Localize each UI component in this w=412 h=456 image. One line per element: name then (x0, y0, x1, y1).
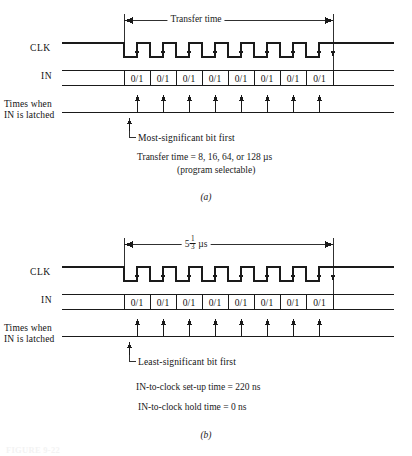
in-bit-cell: 0/1 (280, 298, 306, 309)
clk-edge-markers (135, 51, 336, 57)
in-bit-cell: 0/1 (150, 298, 176, 309)
fraction-denominator: 3 (190, 243, 196, 251)
timing-panel-b: CLK IN Times when IN is latched 513µs 0/… (0, 222, 412, 456)
timing-panel-a: CLK IN Times when IN is latched Transfer… (0, 0, 412, 215)
in-bit-cell: 0/1 (254, 74, 280, 85)
in-bit-cell: 0/1 (228, 74, 254, 85)
program-selectable-note: (program selectable) (177, 165, 255, 175)
first-bit-note-a: Most-significant bit first (138, 133, 235, 144)
caption-b: (b) (0, 430, 412, 440)
latch-arrows (135, 95, 322, 112)
figure-page: CLK IN Times when IN is latched Transfer… (0, 0, 412, 456)
setup-time-note: IN-to-clock set-up time = 220 ns (136, 382, 260, 392)
dimension-whole-number: 5 (185, 239, 190, 249)
latch-label-a-line2: IN is latched (4, 110, 55, 121)
in-bit-cell: 0/1 (228, 298, 254, 309)
dimension-arrowhead-right (325, 17, 334, 24)
dimension-arrowhead-left (125, 241, 134, 248)
in-bit-cell: 0/1 (176, 74, 202, 85)
in-bit-cell: 0/1 (280, 74, 306, 85)
in-bit-cell: 0/1 (306, 298, 333, 309)
dimension-label-b: 513µs (182, 236, 211, 252)
panel-a-waveform-svg (0, 0, 412, 215)
latch-label-b-line2: IN is latched (4, 334, 55, 345)
in-bit-cell: 0/1 (124, 298, 150, 309)
panel-b-waveform-svg (0, 222, 412, 456)
first-bit-note-b: Least-significant bit first (138, 357, 236, 368)
in-bit-cell: 0/1 (202, 298, 228, 309)
clk-label-a: CLK (30, 43, 51, 54)
in-label-a: IN (41, 71, 52, 82)
clk-label-b: CLK (30, 267, 51, 278)
in-bit-cell: 0/1 (202, 74, 228, 85)
dimension-label-a: Transfer time (167, 14, 224, 24)
latch-arrows (135, 319, 322, 336)
dimension-arrowhead-right (325, 241, 334, 248)
figure-footer: FIGURE 9-22 (6, 445, 60, 455)
latch-label-b-line1: Times when (4, 323, 52, 334)
in-bit-cell: 0/1 (254, 298, 280, 309)
caption-a: (a) (0, 192, 412, 202)
clk-edge-markers (135, 275, 336, 281)
fraction-numerator: 1 (190, 236, 196, 243)
first-bit-callout-leader (127, 342, 136, 362)
in-bit-cell: 0/1 (150, 74, 176, 85)
clk-waveform (62, 43, 394, 57)
in-bit-cell: 0/1 (176, 298, 202, 309)
dimension-fraction: 13 (190, 236, 196, 252)
clk-waveform (62, 267, 394, 281)
dimension-unit: µs (198, 239, 207, 249)
in-bit-cell: 0/1 (306, 74, 333, 85)
in-label-b: IN (41, 295, 52, 306)
first-bit-callout-leader (127, 118, 136, 138)
latch-label-a-line1: Times when (4, 99, 52, 110)
transfer-time-note: Transfer time = 8, 16, 64, or 128 µs (137, 152, 272, 162)
hold-time-note: IN-to-clock hold time = 0 ns (138, 402, 247, 412)
in-bit-cell: 0/1 (124, 74, 150, 85)
dimension-arrowhead-left (125, 17, 134, 24)
